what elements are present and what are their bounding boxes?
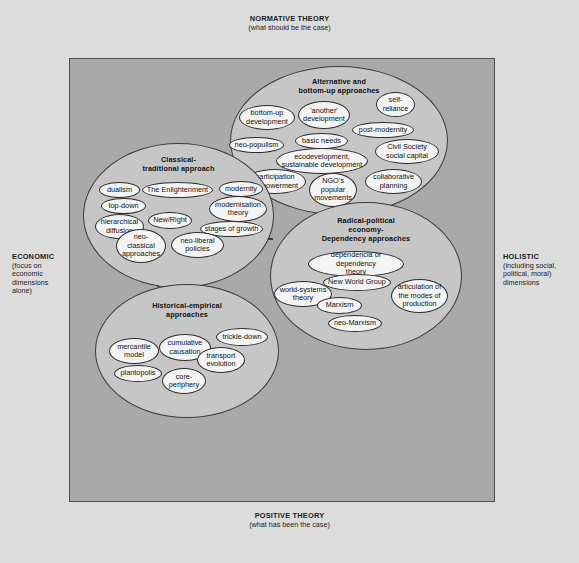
node-civil-society-social-capital[interactable]: Civil Society social capital [375,139,439,164]
node-bottom-up-development[interactable]: bottom-up development [239,105,295,130]
node-transport-evolution[interactable]: transport evolution [197,347,245,373]
node-the-enlightenment[interactable]: The Enlightenment [142,182,213,198]
axis-label-normative-theory: NORMATIVE THEORY (what should be the cas… [0,15,579,32]
node-new-right[interactable]: New/Right [148,212,192,229]
node-dualism[interactable]: dualism [99,182,140,198]
group-title-classical: Classical- traditional approach [84,155,273,173]
node-post-modernity[interactable]: post-modernity [352,122,414,138]
group-title-radical: Radical-political economy- Dependency ap… [271,216,461,243]
node-self-reliance[interactable]: self- reliance [376,92,415,117]
group-title-historical: Historical-empirical approaches [96,301,278,319]
node-new-world-group[interactable]: New World Group [323,274,391,291]
group-historical-empirical[interactable]: Historical-empirical approaches mercanti… [95,284,279,418]
axis-label-holistic: HOLISTIC (including social, political, m… [503,253,575,287]
node-trickle-down[interactable]: trickle-down [216,328,268,346]
group-classical-traditional[interactable]: Classical- traditional approach dualism … [83,143,274,288]
axis-label-positive-sub: (what has been the case) [0,521,579,530]
node-neo-populism[interactable]: neo-populism [229,137,284,153]
group-title-alternative: Alternative and bottom-up approaches [231,77,447,95]
node-neo-classical-approaches[interactable]: neo- classical approaches [116,229,166,263]
node-marxism[interactable]: Marxism [317,297,362,314]
axis-label-economic-sub: (focus on economic dimensions alone) [12,262,68,296]
node-articulation-modes-of-production[interactable]: articulation of the modes of production [391,279,448,313]
node-ngos-popular-movements[interactable]: NGO's popular movements [309,173,357,207]
node-mercantile-model[interactable]: mercantile model [109,338,159,364]
axis-label-economic: ECONOMIC (focus on economic dimensions a… [12,253,68,296]
node-modernity[interactable]: modernity [219,181,263,197]
plot-frame: Alternative and bottom-up approaches bot… [69,58,495,502]
node-modernisation-theory[interactable]: modernisation theory [209,196,267,222]
node-neo-marxism[interactable]: neo-Marxism [328,315,382,332]
node-plantopolis[interactable]: plantopolis [114,365,162,382]
axis-label-positive-theory: POSITIVE THEORY (what has been the case) [0,512,579,529]
node-top-down[interactable]: top-down [101,198,146,214]
node-another-development[interactable]: 'another' development [298,101,350,129]
axis-label-normative-sub: (what should be the case) [0,24,579,33]
node-core-periphery[interactable]: core- periphery [162,368,206,394]
diagram-canvas: NORMATIVE THEORY (what should be the cas… [0,0,579,563]
group-radical-political-economy[interactable]: Radical-political economy- Dependency ap… [270,202,462,350]
node-basic-needs[interactable]: basic needs [295,133,348,149]
node-collaborative-planning[interactable]: collaborative planning [365,169,422,194]
node-neo-liberal-policies[interactable]: neo-liberal policies [171,232,224,258]
axis-label-holistic-sub: (including social, political, moral) dim… [503,262,575,288]
